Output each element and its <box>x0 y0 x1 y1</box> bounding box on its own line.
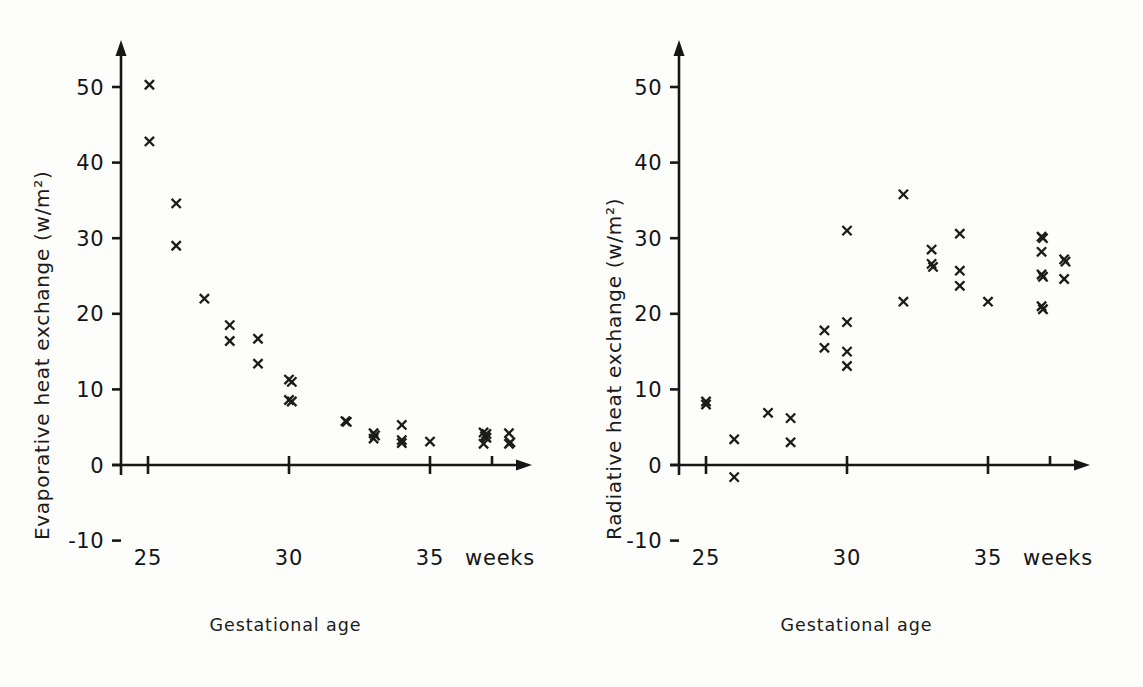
data-point-marker <box>955 229 964 238</box>
data-point-marker <box>842 226 851 235</box>
y-tick-label: -10 <box>626 529 662 553</box>
data-point-marker <box>955 266 964 275</box>
data-point-marker <box>397 420 406 429</box>
data-point-marker <box>842 361 851 370</box>
y-tick-label: 20 <box>76 302 104 326</box>
y-tick-label: 10 <box>634 378 662 402</box>
y-tick-label: -10 <box>68 529 104 553</box>
data-point-marker <box>504 429 513 438</box>
x-tick-label: 30 <box>833 546 861 570</box>
data-point-marker <box>899 297 908 306</box>
y-tick-label: 30 <box>634 227 662 251</box>
x-axis-caption-radiative: Gestational age <box>571 615 1142 635</box>
data-point-marker <box>820 343 829 352</box>
x-tick-group-radiative: 253035weeks <box>692 456 1093 570</box>
x-tick-label: 35 <box>974 546 1002 570</box>
data-point-marker <box>786 438 795 447</box>
data-point-marker <box>172 241 181 250</box>
data-point-marker <box>425 437 434 446</box>
x-tick-label: 35 <box>416 546 444 570</box>
y-tick-label: 0 <box>648 454 662 478</box>
data-point-marker <box>730 435 739 444</box>
y-tick-group-evaporative: -1001020304050 <box>68 76 121 554</box>
data-point-marker <box>842 318 851 327</box>
data-point-marker <box>1060 274 1069 283</box>
data-point-marker <box>253 334 262 343</box>
data-point-marker <box>820 326 829 335</box>
y-tick-label: 20 <box>634 302 662 326</box>
x-tick-label: 25 <box>692 546 720 570</box>
data-point-marker <box>172 199 181 208</box>
data-point-marker <box>786 414 795 423</box>
y-tick-label: 30 <box>76 227 104 251</box>
panel-evaporative: Evaporative heat exchange (w/m²) -100102… <box>0 0 571 687</box>
plot-area-radiative: -1001020304050 253035weeks <box>571 0 1143 687</box>
data-point-marker <box>1037 247 1046 256</box>
y-tick-label: 10 <box>76 378 104 402</box>
x-tick-label: 25 <box>134 546 162 570</box>
data-point-marker <box>842 347 851 356</box>
y-tick-label: 40 <box>634 151 662 175</box>
data-point-marker <box>253 359 262 368</box>
y-tick-group-radiative: -1001020304050 <box>626 76 679 554</box>
y-tick-label: 0 <box>90 454 104 478</box>
axes-radiative <box>670 40 1090 475</box>
x-axis-caption-evaporative: Gestational age <box>0 615 571 635</box>
data-point-marker <box>730 472 739 481</box>
data-point-marker <box>225 336 234 345</box>
data-point-marker <box>200 294 209 303</box>
x-axis-unit-label: weeks <box>1023 546 1093 570</box>
axes-evaporative <box>112 40 532 475</box>
data-point-marker <box>287 377 296 386</box>
figure-scatter-pair: Evaporative heat exchange (w/m²) -100102… <box>0 0 1143 687</box>
data-point-marker <box>225 321 234 330</box>
y-tick-label: 50 <box>634 76 662 100</box>
plot-area-evaporative: -1001020304050 253035weeks <box>0 0 571 687</box>
x-axis-unit-label: weeks <box>465 546 535 570</box>
y-tick-label: 50 <box>76 76 104 100</box>
data-markers-radiative <box>701 190 1070 482</box>
data-point-marker <box>145 80 154 89</box>
data-point-marker <box>763 408 772 417</box>
data-markers-evaporative <box>145 80 515 448</box>
data-point-marker <box>145 137 154 146</box>
data-point-marker <box>927 245 936 254</box>
data-point-marker <box>899 190 908 199</box>
panel-radiative: Radiative heat exchange (w/m²) -10010203… <box>571 0 1142 687</box>
y-tick-label: 40 <box>76 151 104 175</box>
x-tick-group-evaporative: 253035weeks <box>134 456 535 570</box>
data-point-marker <box>955 281 964 290</box>
x-tick-label: 30 <box>275 546 303 570</box>
data-point-marker <box>983 297 992 306</box>
